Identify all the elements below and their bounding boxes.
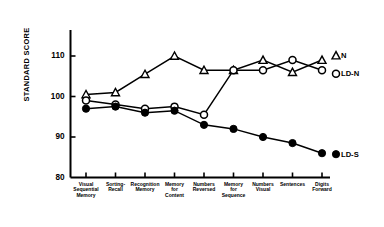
legend-marker-LD-S	[332, 151, 339, 158]
legend-marker-N	[332, 52, 340, 59]
chart-plot-area	[0, 0, 384, 227]
chart-figure: STANDARD SCORE 1101009080 VisualSequenti…	[0, 0, 384, 227]
legend-marker-LD-N	[333, 70, 340, 77]
